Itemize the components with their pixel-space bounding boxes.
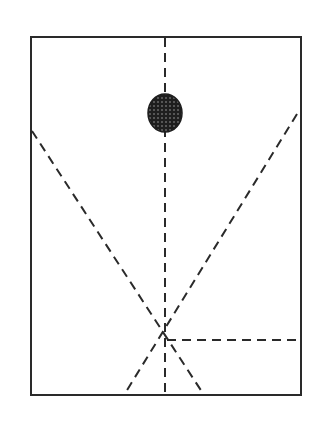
optics-diagram bbox=[0, 0, 324, 429]
hatched-dot bbox=[148, 94, 182, 132]
right-diagonal-line bbox=[124, 114, 297, 395]
left-diagonal-line bbox=[32, 131, 204, 395]
dashed-lines bbox=[32, 38, 301, 395]
